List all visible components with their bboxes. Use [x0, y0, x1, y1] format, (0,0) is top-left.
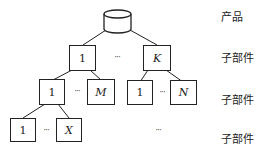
level-label-product: 产品 — [221, 8, 243, 24]
level-label-subpart: 子部件 — [221, 130, 254, 146]
node-label: X — [65, 124, 73, 137]
subpart-node: 1 — [10, 118, 36, 142]
subpart-node: K — [143, 45, 171, 71]
level-label-subpart: 子部件 — [221, 49, 254, 65]
ellipsis: ··· — [74, 86, 80, 96]
subpart-node: X — [56, 118, 82, 142]
ellipsis: ··· — [155, 125, 161, 135]
ellipsis: ··· — [159, 87, 165, 97]
node-label: 1 — [49, 86, 56, 99]
subpart-node: 1 — [39, 79, 65, 105]
tree-connectors — [0, 0, 258, 156]
node-label: 1 — [20, 124, 27, 137]
node-label: M — [95, 86, 106, 99]
product-cylinder-icon — [104, 10, 131, 33]
node-label: 1 — [79, 52, 86, 65]
node-label: N — [179, 86, 189, 99]
node-label: K — [153, 52, 161, 65]
subpart-node: N — [170, 80, 197, 105]
ellipsis: ··· — [114, 52, 120, 62]
ellipsis: ··· — [43, 125, 49, 135]
node-label: 1 — [137, 86, 144, 99]
subpart-node: 1 — [127, 80, 153, 105]
subpart-node: M — [87, 79, 115, 105]
level-label-subpart: 子部件 — [221, 91, 254, 107]
subpart-node: 1 — [69, 45, 96, 71]
